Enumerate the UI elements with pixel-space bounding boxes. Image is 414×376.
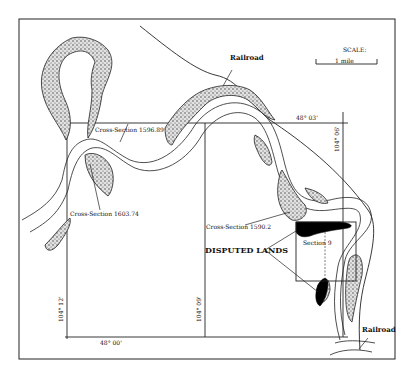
lon-left-label: 104° 12' [57,296,64,322]
railroad-label-top: Railroad [230,53,264,62]
disputed-lands-label: DISPUTED LANDS [205,245,288,255]
scale-value: 1 mile [335,57,354,64]
cross-section-1590-label: Cross-Section 1590.2 [206,223,271,230]
disputed-lands-river-map: Section 9 Railroad Railroad Cross-Sectio… [0,0,414,376]
lat-bottom-label: 48° 00' [100,339,122,346]
scale-bar: SCALE: 1 mile [316,46,377,64]
lon-middle-label: 104° 09' [195,296,202,322]
cross-section-1603-label: Cross-Section 1603.74 [70,210,139,217]
railroad-label-bottom: Railroad [362,325,396,334]
railroad-line [140,26,374,350]
disputed-land-south [316,278,328,306]
section-9-label: Section 9 [303,239,332,246]
lon-right-label: 104° 06' [333,126,340,152]
scale-title: SCALE: [343,46,366,53]
cross-section-1596-label: Cross-Section 1596.89 [95,126,164,133]
map-frame [19,19,395,359]
lat-top-label: 48° 03' [296,114,318,121]
sandbars [41,37,362,322]
